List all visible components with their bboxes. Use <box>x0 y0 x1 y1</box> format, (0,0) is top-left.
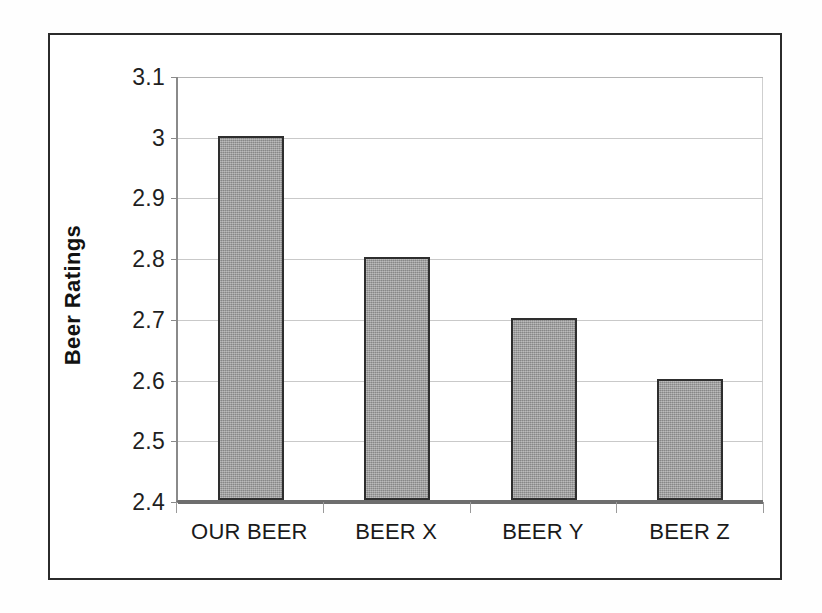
y-axis-tick-label: 2.5 <box>132 428 165 455</box>
y-axis-tick-label: 2.6 <box>132 367 165 394</box>
bar-slot <box>324 77 470 500</box>
y-axis-tick-mark <box>171 441 178 442</box>
y-axis-tick-mark <box>171 138 178 139</box>
y-axis-tick-label: 3 <box>152 124 165 151</box>
bar-slot <box>471 77 617 500</box>
x-axis-category-label: OUR BEER <box>176 512 323 552</box>
y-axis-tick-mark <box>171 320 178 321</box>
plot-area <box>176 77 763 502</box>
y-axis-tick-mark <box>171 77 178 78</box>
y-axis-title-text: Beer Ratings <box>60 225 86 366</box>
y-axis-tick-label: 3.1 <box>132 64 165 91</box>
y-axis-tick-label: 2.8 <box>132 246 165 273</box>
y-axis-tick-mark <box>171 381 178 382</box>
bar-beer-z[interactable] <box>657 379 723 500</box>
x-axis-category-label: BEER X <box>323 512 470 552</box>
plot-area-wrapper: 3.132.92.82.72.62.52.4 <box>176 77 763 502</box>
y-axis-tick-mark <box>171 198 178 199</box>
y-axis-tick-label: 2.9 <box>132 185 165 212</box>
bar-slot <box>178 77 324 500</box>
x-axis-category-label: BEER Y <box>470 512 617 552</box>
y-axis-title: Beer Ratings <box>58 180 88 410</box>
y-axis-tick-label: 2.4 <box>132 489 165 516</box>
bar-beer-x[interactable] <box>364 257 430 500</box>
bar-slot <box>617 77 763 500</box>
bar-beer-y[interactable] <box>511 318 577 500</box>
chart-screenshot: Beer Ratings 3.132.92.82.72.62.52.4 OUR … <box>0 0 822 613</box>
y-axis-tick-mark <box>171 259 178 260</box>
bars-group <box>178 77 763 500</box>
bar-our-beer[interactable] <box>218 136 284 500</box>
x-axis-tick-mark <box>763 502 764 513</box>
x-axis-category-label: BEER Z <box>616 512 763 552</box>
y-axis-tick-label: 2.7 <box>132 306 165 333</box>
x-axis-category-labels: OUR BEERBEER XBEER YBEER Z <box>176 512 763 552</box>
